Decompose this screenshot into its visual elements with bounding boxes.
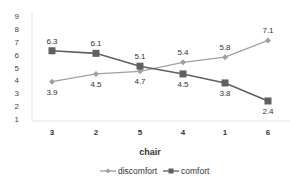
data-label: 5.1 [134, 52, 146, 61]
square-marker [137, 63, 144, 70]
series-discomfort: 3.94.54.75.45.87.1 [46, 26, 274, 96]
data-label: 6.1 [90, 39, 102, 48]
data-label: 5.4 [177, 48, 189, 57]
discomfort-line [52, 40, 268, 81]
data-label: 5.8 [219, 43, 231, 52]
square-marker [93, 50, 100, 57]
x-axis: 325416 [32, 121, 290, 137]
legend-item-discomfort: discomfort [100, 166, 158, 176]
y-tick-label: 7 [15, 38, 20, 47]
y-tick-label: 2 [15, 102, 20, 111]
data-label: 2.4 [262, 107, 274, 116]
y-axis: 123456789 [15, 12, 32, 124]
legend-item-comfort: comfort [163, 166, 210, 176]
data-label: 4.5 [90, 80, 102, 89]
square-marker [180, 70, 187, 77]
x-tick-label: 3 [50, 128, 55, 137]
legend-label: comfort [181, 166, 210, 176]
diamond-marker [93, 71, 99, 77]
x-tick-label: 6 [266, 128, 271, 137]
y-tick-label: 9 [15, 12, 20, 21]
x-tick-label: 1 [223, 128, 228, 137]
square-marker [49, 47, 56, 54]
data-label: 6.3 [46, 37, 58, 46]
y-tick-label: 3 [15, 89, 20, 98]
diamond-marker-icon [106, 169, 111, 174]
data-label: 7.1 [262, 26, 274, 35]
x-axis-title: chair [139, 147, 161, 157]
y-tick-label: 8 [15, 25, 20, 34]
data-label: 4.5 [177, 80, 189, 89]
square-marker [265, 97, 272, 104]
line-chart: 123456789 325416 3.94.54.75.45.87.16.36.… [0, 0, 304, 185]
x-tick-label: 2 [94, 128, 99, 137]
data-label: 3.8 [219, 89, 231, 98]
diamond-marker [265, 37, 271, 43]
data-label: 4.7 [134, 77, 146, 86]
chart-canvas: 123456789 325416 3.94.54.75.45.87.16.36.… [0, 0, 304, 185]
y-tick-label: 1 [15, 115, 20, 124]
diamond-marker [49, 79, 55, 85]
diamond-marker [222, 54, 228, 60]
series-group: 3.94.54.75.45.87.16.36.15.14.53.82.4 [46, 26, 274, 116]
x-tick-label: 5 [138, 128, 143, 137]
data-label: 3.9 [46, 88, 58, 97]
legend-label: discomfort [118, 166, 158, 176]
diamond-marker [180, 59, 186, 65]
y-tick-label: 5 [15, 64, 20, 73]
legend: discomfortcomfort [100, 166, 210, 176]
square-marker [222, 79, 229, 86]
y-tick-label: 6 [15, 51, 20, 60]
square-marker-icon [169, 169, 174, 174]
x-tick-label: 4 [181, 128, 186, 137]
y-tick-label: 4 [15, 76, 20, 85]
